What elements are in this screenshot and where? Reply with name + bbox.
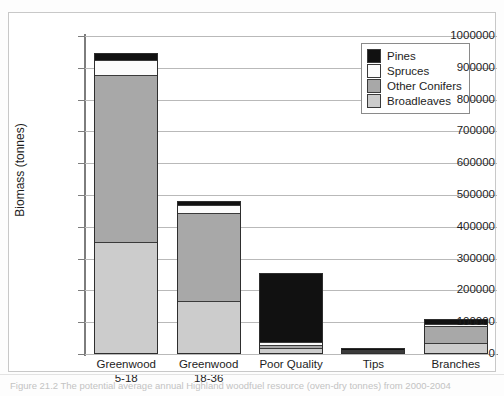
legend-label: Pines <box>387 50 416 62</box>
y-tick-label: 900000 <box>431 62 495 73</box>
y-tick-mark <box>78 259 85 260</box>
bar-segment-broadleaves[interactable] <box>178 301 240 353</box>
y-tick-label: 200000 <box>431 284 495 295</box>
bar-slot <box>250 36 332 354</box>
legend-label: Spruces <box>387 65 429 77</box>
y-tick-mark <box>78 163 85 164</box>
bar-segment-other-conifers[interactable] <box>178 213 240 300</box>
x-axis-label-line: Greenwood <box>85 358 167 372</box>
y-tick-label: 500000 <box>431 189 495 200</box>
y-tick-mark <box>78 322 85 323</box>
bar-segment-broadleaves[interactable] <box>95 242 157 353</box>
stacked-bar[interactable] <box>259 273 323 354</box>
legend-item: Pines <box>367 48 462 63</box>
y-tick-label: 1000000 <box>431 30 495 41</box>
legend-item: Other Conifers <box>367 78 462 93</box>
stacked-bar[interactable] <box>341 348 405 354</box>
x-axis-label-line: Branches <box>415 358 497 372</box>
stacked-bar[interactable] <box>177 201 241 354</box>
y-tick-mark <box>78 68 85 69</box>
legend-label: Other Conifers <box>387 80 462 92</box>
y-tick-label: 100000 <box>431 316 495 327</box>
legend-swatch <box>367 64 381 78</box>
bar-segment-other-conifers[interactable] <box>425 326 487 343</box>
bar-segment-spruces[interactable] <box>178 205 240 213</box>
y-tick-mark <box>78 354 85 355</box>
chart-frame: Biomass (tonnes) Greenwood5-18Greenwood1… <box>8 12 496 372</box>
bar-segment-broadleaves[interactable] <box>342 352 404 353</box>
legend-swatch <box>367 94 381 108</box>
legend-swatch <box>367 79 381 93</box>
figure-caption: Figure 21.2 The potential average annual… <box>10 380 504 391</box>
y-tick-label: 700000 <box>431 125 495 136</box>
x-axis-label-line: Poor Quality <box>250 358 332 372</box>
bar-segment-other-conifers[interactable] <box>95 75 157 242</box>
y-tick-label: 300000 <box>431 253 495 264</box>
y-tick-label: 600000 <box>431 157 495 168</box>
bar-slot <box>167 36 249 354</box>
x-axis-label-line: Tips <box>332 358 414 372</box>
y-tick-mark <box>78 290 85 291</box>
y-tick-mark <box>78 36 85 37</box>
x-axis-label-line: Greenwood <box>167 358 249 372</box>
figure-page: Biomass (tonnes) Greenwood5-18Greenwood1… <box>0 0 504 396</box>
y-tick-mark <box>78 195 85 196</box>
y-tick-label: 0 <box>431 348 495 359</box>
legend-swatch <box>367 49 381 63</box>
y-tick-mark <box>78 100 85 101</box>
caption-divider <box>0 374 504 375</box>
y-tick-mark <box>78 227 85 228</box>
y-tick-mark <box>78 131 85 132</box>
bar-segment-pines[interactable] <box>260 274 322 342</box>
bar-segment-broadleaves[interactable] <box>260 348 322 353</box>
bar-segment-spruces[interactable] <box>95 60 157 75</box>
y-tick-label: 800000 <box>431 94 495 105</box>
y-tick-label: 400000 <box>431 221 495 232</box>
bar-slot <box>85 36 167 354</box>
stacked-bar[interactable] <box>94 53 158 354</box>
y-axis-title: Biomass (tonnes) <box>13 40 27 300</box>
